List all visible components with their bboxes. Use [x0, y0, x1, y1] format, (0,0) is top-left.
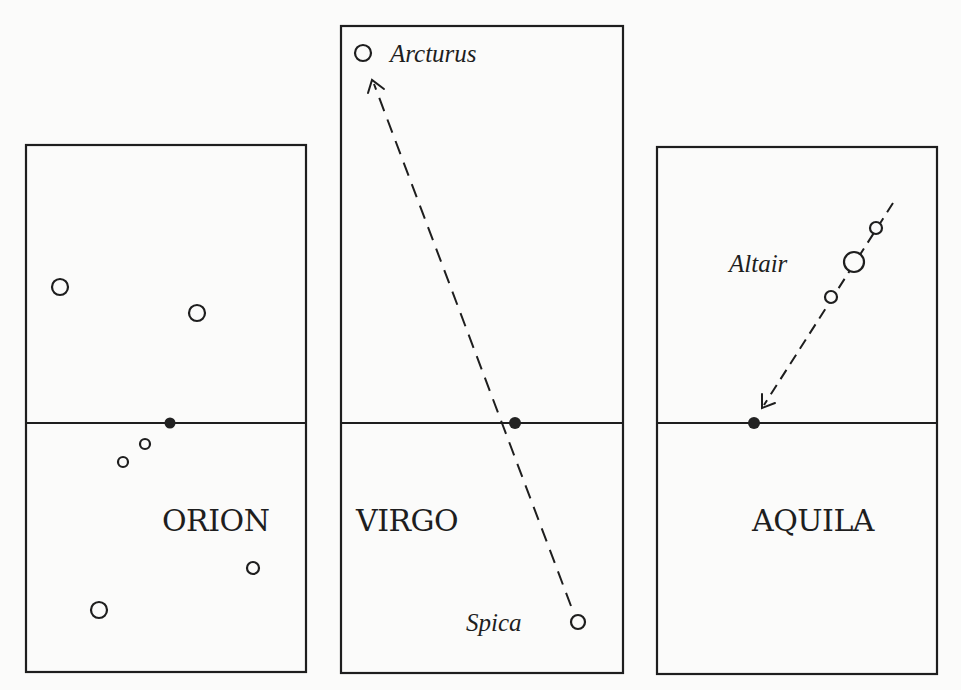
star-marker	[247, 562, 259, 574]
arrow-head-icon	[762, 394, 775, 408]
panel-aquila: Altair AQUILA	[657, 147, 937, 674]
panel-orion: ORION	[26, 145, 306, 672]
star-marker-arcturus	[355, 45, 371, 61]
reference-point	[748, 417, 760, 429]
star-marker	[118, 457, 128, 467]
star-marker	[825, 291, 837, 303]
reference-point	[165, 418, 176, 429]
star-label-spica: Spica	[466, 609, 522, 636]
constellation-label-aquila: AQUILA	[751, 503, 875, 538]
star-marker-spica	[571, 615, 585, 629]
star-marker	[91, 602, 107, 618]
star-label-arcturus: Arcturus	[388, 40, 477, 67]
constellation-label-virgo: VIRGO	[355, 503, 458, 538]
panel-virgo: Arcturus Spica VIRGO	[341, 26, 623, 673]
star-marker	[189, 305, 205, 321]
star-marker-altair	[844, 252, 864, 272]
constellation-label-orion: ORION	[162, 503, 269, 538]
star-marker	[870, 222, 882, 234]
reference-point	[509, 417, 521, 429]
constellation-diagram: ORION Arcturus Spica VIRGO Altair AQUILA	[0, 0, 961, 690]
star-label-altair: Altair	[727, 250, 788, 277]
panel-frame	[26, 145, 306, 672]
star-marker	[52, 279, 68, 295]
panel-frame	[657, 147, 937, 674]
star-marker	[140, 439, 150, 449]
panel-frame	[341, 26, 623, 673]
